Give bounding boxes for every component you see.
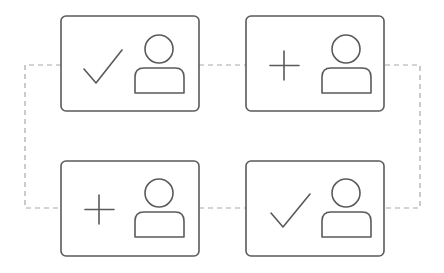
card-frame (246, 16, 384, 111)
card-frame (246, 161, 384, 256)
card-bottom-right (246, 161, 384, 256)
card-top-right (246, 16, 384, 111)
connector-right (385, 65, 420, 208)
diagram-canvas (0, 0, 444, 273)
card-frame (61, 161, 199, 256)
connector-left (25, 65, 61, 208)
card-bottom-left (61, 161, 199, 256)
card-frame (61, 16, 199, 111)
card-top-left (61, 16, 199, 111)
